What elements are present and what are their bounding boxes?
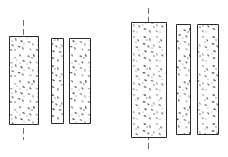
hatch-fill-right-wide-panel (132, 23, 167, 138)
hatch-fill-left-wide-panel (10, 37, 39, 125)
wall-section-diagram (0, 0, 228, 157)
diagram-root (0, 0, 228, 157)
right-section-group (132, 8, 219, 152)
hatch-fill-right-narrow-panel (177, 25, 191, 135)
hatch-fill-left-medium-panel (70, 39, 91, 124)
hatch-fill-right-medium-panel (198, 25, 219, 135)
left-section-group (10, 20, 91, 140)
hatch-fill-left-narrow-panel (52, 39, 64, 124)
